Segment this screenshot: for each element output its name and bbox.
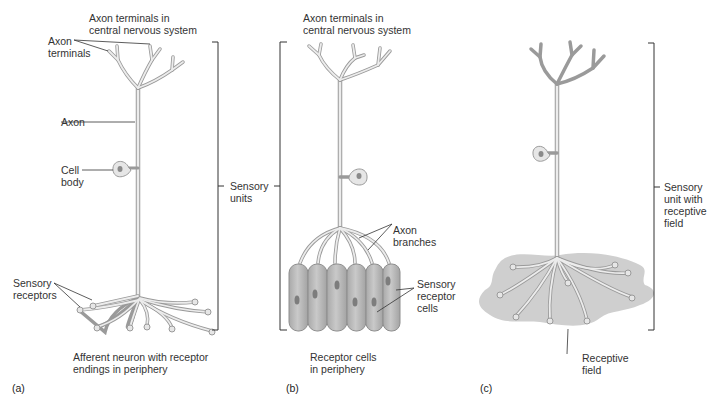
label-sensory-units: Sensory units [230, 180, 269, 204]
label-axon-terminals-cns-a: Axon terminals in central nervous system [89, 12, 197, 36]
cell-body-b [349, 169, 367, 185]
label-axon: Axon [61, 116, 85, 128]
caption-panel-a: Afferent neuron with receptor endings in… [73, 351, 208, 375]
label-axon-branches: Axon branches [393, 224, 436, 248]
label-axon-terminals-cns-b: Axon terminals in central nervous system [303, 12, 411, 36]
sensory-receptor-cells [289, 264, 400, 331]
bracket-sensory-units-b [274, 42, 287, 330]
bracket-sensory-units-a [212, 42, 224, 330]
panel-letter-b: (b) [286, 382, 299, 394]
panel-letter-c: (c) [480, 382, 492, 394]
label-sensory-receptor-cells: Sensory receptor cells [417, 278, 456, 314]
cell-body-a [113, 161, 131, 176]
panel-letter-a: (a) [12, 382, 25, 394]
caption-panel-b: Receptor cells in periphery [310, 351, 377, 375]
cell-body-c [533, 146, 550, 161]
label-sensory-receptors: Sensory receptors [13, 277, 57, 301]
neuron-a [80, 46, 212, 332]
leader-lines-c [567, 329, 568, 354]
label-axon-terminals: Axon terminals [48, 35, 91, 59]
bracket-sensory-unit-c [648, 43, 660, 330]
label-cell-body: Cell body [61, 164, 84, 188]
neuron-diagram [0, 0, 724, 409]
label-receptive-field: Receptive field [582, 352, 629, 376]
label-sensory-unit-receptive-field: Sensory unit with receptive field [664, 181, 707, 229]
